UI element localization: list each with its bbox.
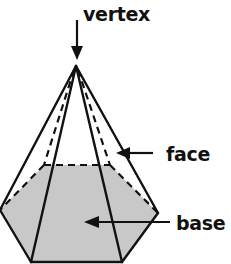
hexagonal-pyramid-diagram: vertex face base xyxy=(0,0,231,264)
label-face: face xyxy=(166,143,210,165)
vertex-pointer xyxy=(71,20,83,60)
label-vertex: vertex xyxy=(83,3,150,25)
vertex-arrow-icon xyxy=(71,46,83,60)
label-base: base xyxy=(176,212,225,234)
